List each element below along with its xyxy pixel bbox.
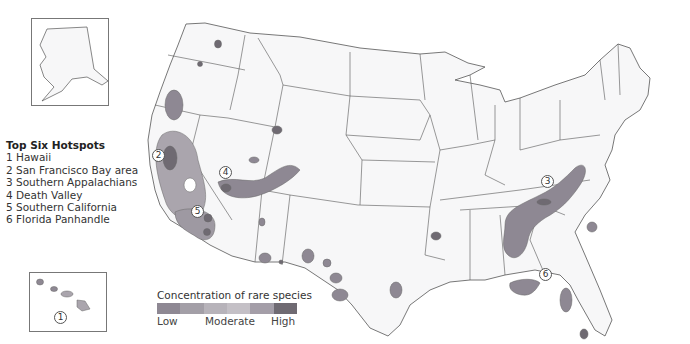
marker-florida: 6 [539,268,552,281]
scale-swatch [180,303,203,314]
hawaii-shape [30,273,106,331]
scale-swatch [227,303,250,314]
scale-swatch [274,303,297,314]
alaska-shape [32,19,108,105]
marker-sf-bay: 2 [152,149,165,162]
scale-swatch [250,303,273,314]
scale-low: Low [157,315,178,327]
marker-appalachians: 3 [541,175,554,188]
concentration-scale: Concentration of rare species Low Modera… [157,289,297,328]
legend-title: Top Six Hotspots [6,139,138,151]
legend-item: 3 Southern Appalachians [6,176,138,188]
scale-bar [157,303,297,314]
scale-moderate: Moderate [205,315,255,327]
marker-hawaii: 1 [54,311,67,324]
legend-item: 5 Southern California [6,201,138,213]
hawaii-inset [29,272,107,332]
marker-socal: 5 [191,205,204,218]
scale-labels: Low Moderate High [157,315,297,328]
legend-item: 4 Death Valley [6,189,138,201]
legend-item: 6 Florida Panhandle [6,213,138,225]
marker-death-valley: 4 [219,166,232,179]
scale-swatch [204,303,227,314]
legend-item: 2 San Francisco Bay area [6,164,138,176]
scale-swatch [157,303,180,314]
hotspot-legend: Top Six Hotspots 1 Hawaii 2 San Francisc… [6,139,138,226]
legend-item: 1 Hawaii [6,151,138,163]
scale-high: High [271,315,295,327]
scale-title: Concentration of rare species [157,289,297,301]
alaska-inset [31,18,109,106]
